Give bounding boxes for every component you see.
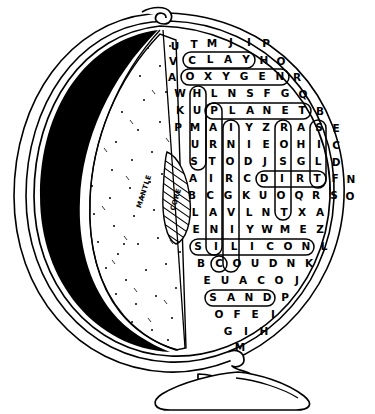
grid-letter: O — [277, 189, 286, 201]
grid-letter: N — [287, 257, 296, 269]
grid-letter: U — [221, 274, 230, 286]
grid-letter: A — [246, 104, 255, 116]
grid-letter: I — [244, 325, 248, 337]
grid-letter: T — [313, 172, 321, 184]
grid-letter: P — [262, 37, 270, 49]
grid-letter: S — [194, 240, 202, 252]
grid-letter: A — [209, 206, 218, 218]
grid-letter: H — [193, 87, 202, 99]
grid-letter: L — [315, 155, 322, 167]
grid-letter: L — [321, 240, 328, 252]
grid-letter: E — [203, 274, 210, 286]
grid-letter: Y — [241, 53, 250, 65]
grid-letter: C — [206, 189, 214, 201]
grid-letter: A — [227, 291, 236, 303]
grid-letter: J — [262, 155, 267, 167]
grid-letter: F — [331, 172, 338, 184]
grid-letter: I — [250, 240, 254, 252]
grid-letter: S — [330, 189, 338, 201]
grid-letter: A — [189, 172, 198, 184]
grid-letter: O — [280, 138, 289, 150]
grid-letter: L — [246, 206, 253, 218]
grid-letter: K — [176, 104, 185, 116]
grid-letter: G — [281, 87, 290, 99]
grid-letter: P — [281, 291, 289, 303]
grid-letter: U — [193, 104, 202, 116]
grid-letter: S — [246, 87, 254, 99]
grid-letter: S — [315, 121, 323, 133]
grid-letter: G — [224, 189, 233, 201]
grid-letter: P — [174, 121, 182, 133]
grid-letter: Y — [221, 70, 230, 82]
grid-letter: Y — [244, 121, 253, 133]
globe-diagram: MANTLE CORE U T M J I P V C L A Y H O A … — [0, 0, 375, 414]
grid-letter: S — [279, 155, 287, 167]
grid-letter: O — [346, 190, 355, 202]
grid-letter: L — [211, 87, 218, 99]
grid-letter: A — [297, 121, 306, 133]
grid-letter: I — [229, 121, 233, 133]
grid-letter: T — [298, 104, 306, 116]
grid-letter: P — [210, 104, 218, 116]
grid-letter: E — [299, 223, 306, 235]
grid-letter: Q — [299, 88, 308, 100]
grid-letter: F — [233, 308, 240, 320]
grid-letter: I — [247, 36, 251, 48]
grid-letter: Q — [295, 189, 304, 201]
grid-letter: Z — [316, 223, 324, 235]
grid-letter: I — [247, 138, 251, 150]
grid-letter: E — [251, 308, 258, 320]
grid-letter: G — [224, 325, 233, 337]
grid-letter: M — [207, 37, 217, 49]
grid-letter: A — [316, 206, 325, 218]
grid-letter: A — [224, 53, 233, 65]
grid-letter: N — [276, 70, 285, 82]
grid-letter: E — [262, 138, 269, 150]
grid-letter: L — [192, 206, 199, 218]
grid-letter: T — [280, 206, 288, 218]
grid-letter: E — [192, 223, 199, 235]
grid-letter: M — [190, 121, 200, 133]
grid-letter: W — [174, 87, 186, 99]
grid-letter: N — [263, 104, 272, 116]
grid-letter: L — [207, 53, 214, 65]
grid-letter: R — [209, 138, 217, 150]
grid-letter: R — [312, 189, 320, 201]
grid-letter: X — [298, 206, 306, 218]
grid-letter: D — [332, 156, 341, 168]
grid-letter: G — [297, 155, 306, 167]
grid-letter: T — [190, 38, 198, 50]
grid-letter: D — [269, 257, 278, 269]
grid-letter: H — [260, 325, 269, 337]
grid-letter: B — [316, 105, 324, 117]
grid-letter: I — [214, 240, 218, 252]
grid-letter: O — [226, 155, 235, 167]
grid-letter: O — [233, 257, 242, 269]
grid-letter: H — [297, 138, 306, 150]
grid-letter: L — [229, 104, 236, 116]
grid-letter: C — [332, 139, 340, 151]
grid-letter: A — [209, 121, 218, 133]
grid-letter: D — [244, 155, 253, 167]
grid-letter: O — [275, 274, 284, 286]
grid-letter: E — [258, 70, 265, 82]
grid-letter: N — [347, 173, 356, 185]
grid-letter: N — [228, 87, 237, 99]
grid-letter: I — [209, 172, 213, 184]
grid-letter: M — [280, 223, 290, 235]
grid-letter: U — [259, 189, 268, 201]
grid-letter: O — [277, 55, 286, 67]
grid-letter: I — [280, 172, 284, 184]
grid-letter: N — [262, 206, 271, 218]
grid-letter: S — [209, 291, 217, 303]
grid-letter: C — [215, 257, 223, 269]
grid-letter: I — [317, 138, 321, 150]
grid-letter: W — [261, 223, 273, 235]
grid-letter: C — [243, 172, 251, 184]
grid-letter: L — [231, 240, 238, 252]
grid-letter: Z — [262, 121, 270, 133]
globe-base — [155, 372, 310, 410]
grid-letter: U — [171, 40, 180, 52]
grid-letter: C — [266, 240, 274, 252]
grid-letter: B — [188, 189, 196, 201]
